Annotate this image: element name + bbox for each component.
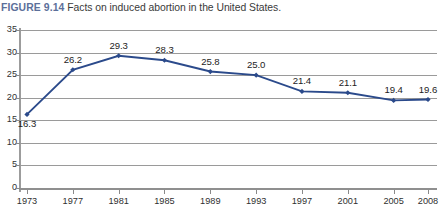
data-point-marker xyxy=(254,73,259,78)
data-point-marker xyxy=(208,69,213,74)
line-chart: 05101520253035 1973197719811985198919931… xyxy=(0,22,441,212)
series-svg xyxy=(0,22,441,212)
data-point-label: 21.4 xyxy=(281,75,323,86)
y-axis-tick-mark xyxy=(15,53,20,54)
y-axis-tick-mark xyxy=(15,165,20,166)
data-point-marker xyxy=(391,98,396,103)
y-axis-tick-mark xyxy=(15,98,20,99)
data-point-label: 16.3 xyxy=(6,118,48,129)
data-point-label: 29.3 xyxy=(98,40,140,51)
data-point-label: 19.6 xyxy=(407,84,441,95)
data-point-label: 26.2 xyxy=(52,54,94,65)
figure-number: FIGURE 9.14 xyxy=(1,2,64,13)
data-point-marker xyxy=(345,90,350,95)
figure-caption: FIGURE 9.14 Facts on induced abortion in… xyxy=(1,1,439,17)
data-point-label: 21.1 xyxy=(327,77,369,88)
data-point-marker xyxy=(162,58,167,63)
y-axis-tick-mark xyxy=(15,30,20,31)
figure-container: FIGURE 9.14 Facts on induced abortion in… xyxy=(0,0,441,212)
y-axis-tick-mark xyxy=(15,188,20,189)
y-axis-tick-mark xyxy=(15,143,20,144)
data-point-marker xyxy=(116,53,121,58)
figure-caption-text: Facts on induced abortion in the United … xyxy=(67,2,281,13)
data-point-label: 25.0 xyxy=(235,59,277,70)
y-axis-tick-mark xyxy=(15,75,20,76)
data-point-marker xyxy=(299,89,304,94)
data-point-label: 25.8 xyxy=(189,56,231,67)
data-point-marker xyxy=(425,97,430,102)
y-axis-tick-mark xyxy=(15,120,20,121)
data-point-label: 28.3 xyxy=(143,44,185,55)
